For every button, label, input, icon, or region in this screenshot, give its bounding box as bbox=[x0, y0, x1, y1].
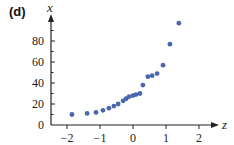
y-tick-label: 60 bbox=[32, 55, 44, 69]
data-point bbox=[155, 71, 160, 76]
data-point bbox=[116, 102, 121, 107]
data-point bbox=[101, 108, 106, 113]
x-axis-arrow-icon bbox=[211, 122, 219, 128]
x-axis-label: z bbox=[221, 117, 227, 132]
x-tick-label: −1 bbox=[94, 131, 107, 145]
data-point bbox=[145, 74, 150, 79]
data-point bbox=[111, 104, 116, 109]
data-point bbox=[168, 42, 173, 47]
axes: zx−2−1012020406080 bbox=[32, 0, 227, 145]
data-point bbox=[138, 91, 143, 96]
x-tick-label: 1 bbox=[163, 131, 169, 145]
data-points bbox=[70, 21, 182, 117]
scatter-chart: zx−2−1012020406080 bbox=[0, 0, 234, 145]
x-tick-label: −2 bbox=[61, 131, 74, 145]
data-point bbox=[70, 112, 75, 117]
data-point bbox=[176, 21, 181, 26]
data-point bbox=[161, 63, 166, 68]
data-point bbox=[107, 106, 112, 111]
y-tick-label: 0 bbox=[38, 118, 44, 132]
y-axis-arrow-icon bbox=[48, 14, 54, 22]
y-tick-label: 40 bbox=[32, 76, 44, 90]
data-point bbox=[150, 73, 155, 78]
data-point bbox=[85, 111, 90, 116]
y-tick-label: 20 bbox=[32, 97, 44, 111]
data-point bbox=[94, 110, 99, 115]
y-axis-label: x bbox=[46, 0, 53, 15]
x-tick-label: 2 bbox=[196, 131, 202, 145]
data-point bbox=[141, 83, 146, 88]
y-tick-label: 80 bbox=[32, 34, 44, 48]
x-tick-label: 0 bbox=[130, 131, 136, 145]
